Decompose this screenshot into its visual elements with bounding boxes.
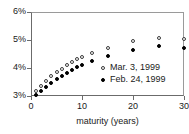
data-point [70, 68, 74, 72]
x-axis-title: maturity (years) [31, 116, 184, 126]
open-circle-marker-icon [101, 66, 105, 70]
x-tick-mark [184, 96, 185, 100]
data-point [44, 79, 48, 83]
data-point [75, 57, 79, 61]
data-point [80, 55, 84, 59]
legend-label: Feb. 24, 1999 [110, 74, 166, 85]
filled-circle-marker-icon [101, 78, 105, 82]
x-tick-label: 0 [19, 101, 43, 111]
data-point [60, 74, 64, 78]
x-tick-label: 30 [172, 101, 189, 111]
x-tick-label: 20 [121, 101, 145, 111]
legend-label: Mar. 3, 1999 [110, 62, 160, 73]
data-point [182, 37, 186, 41]
data-point [60, 67, 64, 71]
y-tick-mark [27, 12, 31, 13]
data-point [106, 46, 110, 50]
data-point [157, 44, 161, 48]
y-tick-label: 3% [0, 91, 26, 100]
data-point [131, 48, 135, 52]
y-tick-label: 6% [0, 7, 26, 16]
x-tick-mark [82, 96, 83, 100]
y-tick-label: 4% [0, 63, 26, 72]
x-tick-mark [31, 96, 32, 100]
x-tick-mark [133, 96, 134, 100]
y-tick-mark [27, 68, 31, 69]
data-point [55, 77, 59, 81]
data-point [106, 54, 110, 58]
data-point [157, 36, 161, 40]
x-tick-label: 10 [70, 101, 94, 111]
data-point [65, 63, 69, 67]
yield-curve-chart: 3%4%5%6% 0102030 maturity (years) Mar. 3… [0, 0, 189, 134]
data-point [55, 70, 59, 74]
data-point [34, 93, 38, 97]
data-point [65, 71, 69, 75]
y-tick-mark [27, 40, 31, 41]
y-tick-label: 5% [0, 35, 26, 44]
data-point [182, 46, 186, 50]
data-point [70, 60, 74, 64]
